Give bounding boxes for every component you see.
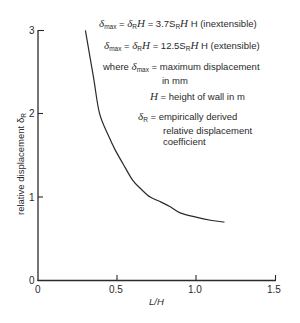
y-tick-label-2: 2 bbox=[29, 108, 35, 119]
x-tick-label-0: 0 bbox=[35, 284, 41, 295]
equation-inextensible: δmax = δRH = 3.7SRH H (inextensible) bbox=[99, 18, 257, 32]
y-tick-label-1: 1 bbox=[29, 192, 35, 203]
definition-height: H = height of wall in m bbox=[150, 91, 245, 102]
definition-delta-r: δR = empirically derived relative displa… bbox=[138, 111, 252, 147]
x-tick-label-1.5: 1.5 bbox=[267, 284, 281, 295]
x-tick-label-0.5: 0.5 bbox=[109, 284, 123, 295]
x-axis-title: L/H bbox=[149, 296, 164, 307]
x-tick-label-1.0: 1.0 bbox=[188, 284, 202, 295]
equation-extensible: δmax = δRH = 12.5SRH H (extensible) bbox=[104, 40, 260, 54]
svg-text:relative displacement δR: relative displacement δR bbox=[15, 113, 27, 215]
y-axis-title: relative displacement δR bbox=[15, 113, 27, 215]
definition-delta-max: where δmax = maximum displacement in mm bbox=[103, 61, 260, 86]
y-tick-label-3: 3 bbox=[29, 25, 35, 36]
